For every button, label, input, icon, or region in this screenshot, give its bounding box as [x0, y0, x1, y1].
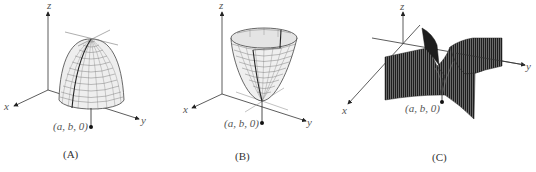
y-axis-label: y — [307, 117, 312, 128]
critical-point-label: (a, b, 0) — [53, 121, 88, 132]
z-axis-label: z — [47, 0, 51, 11]
panel-caption: (C) — [432, 152, 447, 163]
panel-a: z x y (a, b, 0) (A) — [0, 0, 180, 172]
surface-b-plot — [180, 0, 360, 172]
x-axis-label: x — [183, 104, 188, 115]
surface-a-plot — [0, 0, 180, 172]
z-axis-label: z — [400, 1, 404, 12]
x-axis — [192, 94, 222, 108]
x-axis — [14, 90, 48, 106]
x-axis-label: x — [4, 101, 9, 112]
surface-c-plot — [345, 0, 536, 172]
y-axis-label: y — [141, 115, 146, 126]
panel-caption: (B) — [235, 151, 250, 162]
x-axis-label: x — [342, 105, 347, 116]
critical-point-label: (a, b, 0) — [405, 103, 440, 114]
panel-b: z x y (a, b, 0) (B) — [180, 0, 360, 172]
critical-point-label: (a, b, 0) — [224, 118, 259, 129]
point-marker — [440, 100, 444, 104]
z-axis-label: z — [219, 0, 223, 11]
panel-c: z x y (a, b, 0) (C) — [345, 0, 536, 172]
point-marker — [89, 125, 93, 129]
y-axis-label: y — [526, 61, 531, 72]
point-marker — [260, 121, 264, 125]
panel-caption: (A) — [63, 149, 78, 160]
